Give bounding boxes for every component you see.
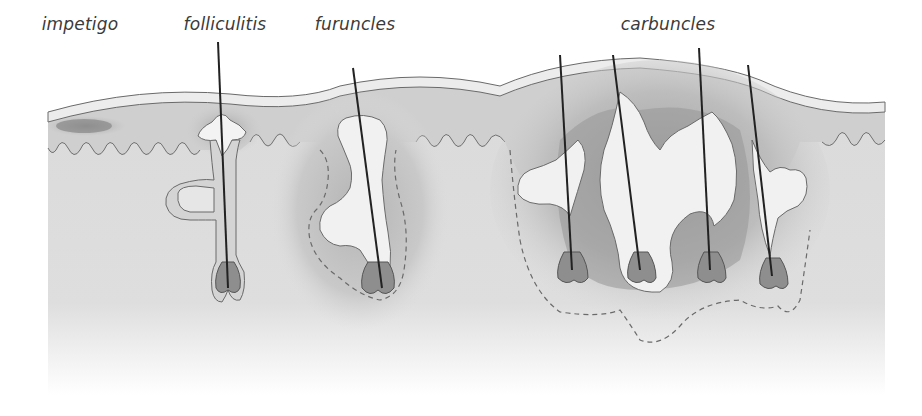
skin-cross-section-diagram: [0, 0, 922, 416]
impetigo-lesion: [46, 116, 126, 136]
